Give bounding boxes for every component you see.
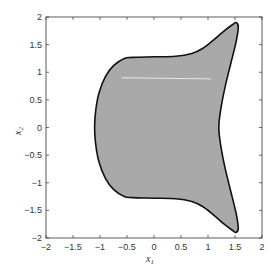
chart: −2−1.5−1−0.500.511.52 −2−1.5−1−0.500.511… [0,0,279,271]
x-tick-label: −1 [95,242,105,252]
y-tick-label: 2 [37,12,42,22]
x-tick-label: 0 [151,242,156,252]
x-axis-label: x1 [145,253,154,266]
y-tick-label: −1.5 [24,205,42,215]
x-tick-label: 0.5 [175,242,188,252]
x-tick-label: 1.5 [229,242,242,252]
y-tick-label: 1.5 [29,40,42,50]
x-tick-label: 2 [259,242,264,252]
x-tick-label: −1.5 [64,242,82,252]
region-boundary [95,22,239,232]
x-tick-label: −2 [41,242,51,252]
y-tick-label: −2 [32,233,42,243]
x-tick-label: −0.5 [118,242,136,252]
y-tick-label: −0.5 [24,150,42,160]
feasible-region [95,22,239,232]
y-tick-label: −1 [32,178,42,188]
y-tick-label: 0.5 [29,95,42,105]
y-axis-label: x2 [12,127,25,136]
y-tick-label: 0 [37,123,42,133]
y-tick-label: 1 [37,67,42,77]
x-tick-label: 1 [205,242,210,252]
